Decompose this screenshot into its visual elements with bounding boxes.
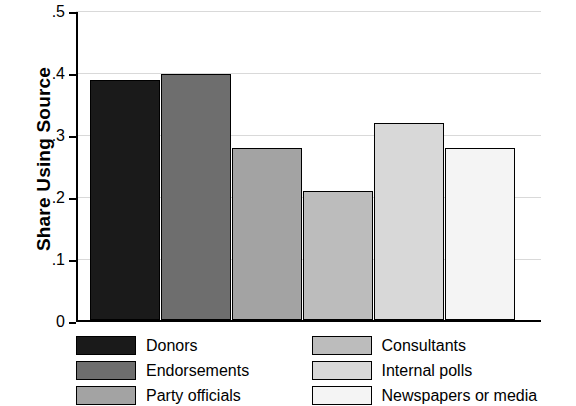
legend-swatch [312, 361, 372, 380]
bar-chart: Share Using Source 0.1.2.3.4.5 DonorsCon… [0, 0, 576, 406]
legend-label: Party officials [146, 387, 241, 405]
y-tick-label: .2 [52, 189, 65, 207]
y-tick-label: .5 [52, 3, 65, 21]
y-tick-mark [69, 136, 76, 138]
chart-legend: DonorsConsultantsEndorsementsInternal po… [76, 334, 541, 406]
plot-area: 0.1.2.3.4.5 [76, 12, 541, 322]
y-tick-mark [69, 260, 76, 262]
legend-entry: Consultants [312, 334, 542, 357]
legend-swatch [76, 361, 136, 380]
y-tick-label: 0 [56, 313, 65, 331]
legend-entry: Party officials [76, 384, 306, 406]
legend-entry: Newspapers or media [312, 384, 542, 406]
legend-swatch [312, 336, 372, 355]
legend-entry: Endorsements [76, 359, 306, 382]
legend-label: Endorsements [146, 362, 249, 380]
y-tick-mark [69, 322, 76, 324]
legend-swatch [76, 336, 136, 355]
y-tick-label: .1 [52, 251, 65, 269]
y-tick-mark [69, 12, 76, 14]
legend-swatch [312, 386, 372, 405]
y-tick-mark [69, 198, 76, 200]
y-tick-mark [69, 74, 76, 76]
legend-label: Newspapers or media [382, 387, 538, 405]
axis-frame [76, 12, 541, 322]
legend-label: Donors [146, 337, 198, 355]
legend-entry: Internal polls [312, 359, 542, 382]
legend-entry: Donors [76, 334, 306, 357]
y-tick-label: .4 [52, 65, 65, 83]
y-tick-label: .3 [52, 127, 65, 145]
legend-label: Consultants [382, 337, 467, 355]
legend-label: Internal polls [382, 362, 473, 380]
legend-swatch [76, 386, 136, 405]
